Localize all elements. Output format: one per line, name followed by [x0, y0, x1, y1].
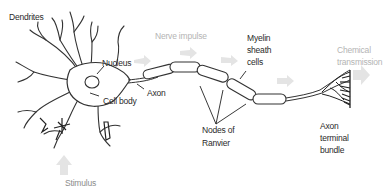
- label-nerve-impulse: Nerve impulse: [155, 31, 207, 41]
- label-terminal-line1: Axon: [320, 121, 349, 131]
- label-myelin-line2: sheath: [247, 45, 271, 55]
- label-nodes-line1: Nodes of: [202, 125, 234, 135]
- label-nucleus: Nucleus: [102, 58, 131, 68]
- label-axon-terminal-bundle: Axon terminal bundle: [320, 121, 349, 155]
- label-myelin-sheath: Myelin sheath cells: [247, 33, 271, 67]
- label-chemical-line1: Chemical: [337, 45, 382, 55]
- label-terminal-line2: terminal: [320, 133, 349, 143]
- label-nodes-of-ranvier: Nodes of Ranvier: [202, 125, 234, 148]
- neuron-diagram: [0, 0, 391, 195]
- label-myelin-line1: Myelin: [247, 33, 271, 43]
- label-cell-body: Cell body: [103, 96, 137, 106]
- label-nodes-line2: Ranvier: [202, 138, 234, 148]
- label-chemical-line2: transmission: [337, 57, 382, 67]
- nucleus: [85, 76, 99, 88]
- label-dendrites: Dendrites: [9, 12, 44, 22]
- label-stimulus: Stimulus: [65, 178, 96, 188]
- label-axon: Axon: [147, 88, 166, 98]
- label-terminal-line3: bundle: [320, 145, 349, 155]
- label-chemical-transmission: Chemical transmission: [337, 45, 382, 67]
- label-myelin-line3: cells: [247, 57, 271, 67]
